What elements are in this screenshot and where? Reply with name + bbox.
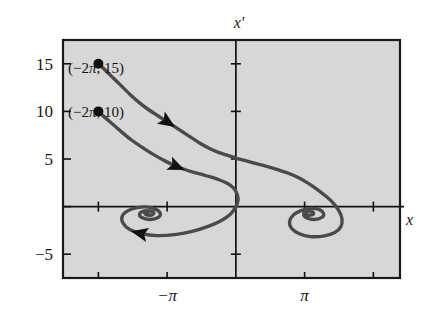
annotation-15-suffix: , 15)	[96, 60, 124, 77]
svg-text:(−2π, 15): (−2π, 15)	[68, 60, 124, 77]
x-tick-label-3: π	[300, 286, 309, 305]
x-tick-label-1: −π	[157, 286, 177, 305]
phase-portrait-figure: −ππ15105−5 x x′ (−2π, 15) (−2π, 10)	[0, 0, 425, 319]
svg-text:(−2π, 10): (−2π, 10)	[68, 104, 124, 121]
x-axis-title: x	[405, 211, 413, 228]
y-tick-label-0: 15	[36, 55, 53, 74]
y-tick-label-2: 5	[45, 150, 54, 169]
y-tick-label-4: −5	[35, 245, 53, 264]
annotation-10-prefix: (−2	[68, 104, 89, 121]
annotation-15-prefix: (−2	[68, 60, 89, 77]
y-tick-label-1: 10	[36, 102, 53, 121]
y-axis-title: x′	[233, 14, 245, 31]
annotation-10-suffix: , 10)	[96, 104, 124, 121]
phase-plot-svg: −ππ15105−5 x x′ (−2π, 15) (−2π, 10)	[0, 0, 425, 319]
annotation-initial-point-10: (−2π, 10)	[68, 104, 124, 121]
annotation-initial-point-15: (−2π, 15)	[68, 60, 124, 77]
